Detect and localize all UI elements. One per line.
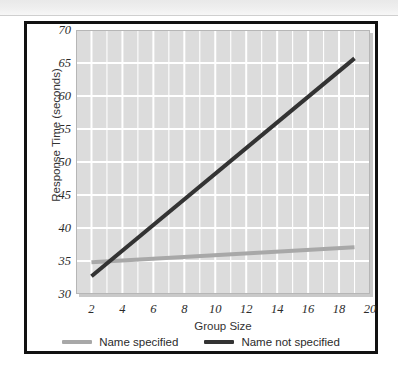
x-tick-label: 18: [326, 303, 352, 316]
page-top-band: [0, 0, 398, 16]
x-tick-label: 8: [171, 303, 197, 316]
x-tick-label: 10: [202, 303, 228, 316]
plot-area: [76, 30, 370, 294]
x-tick-label: 4: [109, 303, 135, 316]
legend-swatch: [204, 340, 234, 344]
x-tick-label: 6: [140, 303, 166, 316]
legend-item[interactable]: Name not specified: [204, 336, 339, 348]
y-tick-label: 35: [41, 255, 71, 268]
legend-item[interactable]: Name specified: [62, 336, 178, 348]
series-line: [91, 58, 354, 276]
series-line: [91, 247, 354, 262]
legend-label: Name specified: [99, 336, 178, 348]
x-axis-title: Group Size: [76, 320, 370, 332]
x-tick-label: 14: [264, 303, 290, 316]
y-tick-label: 30: [41, 288, 71, 301]
figure-frame: 303540455055606570 2468101214161820 Resp…: [24, 21, 378, 354]
chart-legend: Name specifiedName not specified: [27, 336, 375, 348]
y-tick-label: 70: [41, 24, 71, 37]
series-lines: [76, 30, 370, 294]
x-tick-label: 20: [357, 303, 383, 316]
y-axis-title: Response Time (seconds): [50, 50, 62, 220]
x-tick-label: 16: [295, 303, 321, 316]
x-tick-label: 12: [233, 303, 259, 316]
chart-stage: 303540455055606570 2468101214161820 Resp…: [27, 24, 375, 351]
legend-label: Name not specified: [241, 336, 339, 348]
legend-swatch: [62, 340, 92, 344]
x-tick-label: 2: [78, 303, 104, 316]
y-tick-label: 40: [41, 222, 71, 235]
